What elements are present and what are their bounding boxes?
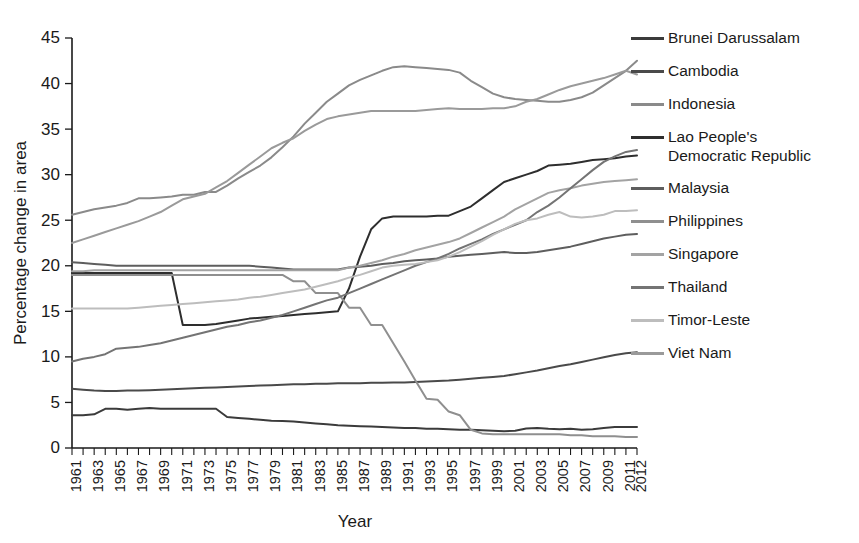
x-tick-label: 1985: [334, 460, 350, 492]
legend-item[interactable]: Malaysia: [631, 178, 857, 198]
y-axis-group: 051015202530354045: [41, 28, 72, 457]
x-tick-label: 1993: [422, 460, 438, 492]
chart-legend: Brunei DarussalamCambodiaIndonesiaLao Pe…: [631, 28, 857, 376]
legend-item[interactable]: Indonesia: [631, 94, 857, 114]
legend-item-label: Philippines: [668, 211, 743, 230]
x-tick-label: 1977: [245, 460, 261, 492]
legend-item-label: Cambodia: [668, 61, 739, 80]
x-tick-label: 1963: [90, 460, 106, 492]
legend-item[interactable]: Philippines: [631, 211, 857, 231]
x-tick-label: 1983: [312, 460, 328, 492]
legend-item[interactable]: Singapore: [631, 244, 857, 264]
series-line-cambodia: [72, 352, 637, 391]
x-tick-label: 1981: [289, 460, 305, 492]
series-line-thailand: [72, 150, 637, 361]
legend-color-swatch: [631, 136, 664, 139]
legend-item[interactable]: Cambodia: [631, 61, 857, 81]
y-tick-label: 35: [41, 120, 60, 139]
chart-figure: 051015202530354045 196119631965196719691…: [0, 0, 859, 543]
legend-item[interactable]: Timor-Leste: [631, 310, 857, 330]
legend-item[interactable]: Lao People's Democratic Republic: [631, 127, 857, 165]
y-tick-label: 45: [41, 28, 60, 47]
y-tick-label: 30: [41, 165, 60, 184]
x-tick-label: 1965: [112, 460, 128, 492]
x-tick-label: 1987: [356, 460, 372, 492]
x-tick-label: 1971: [179, 460, 195, 492]
series-line-singapore: [72, 179, 637, 271]
legend-item-label: Singapore: [668, 244, 739, 263]
x-tick-label: 2001: [511, 460, 527, 492]
y-axis-title: Percentage change in area: [11, 140, 30, 345]
legend-item-label: Malaysia: [668, 178, 729, 197]
series-line-malaysia: [72, 234, 637, 270]
legend-item-label: Brunei Darussalam: [668, 28, 800, 47]
y-tick-label: 40: [41, 74, 60, 93]
x-tick-label: 1967: [134, 460, 150, 492]
legend-item-label: Lao People's Democratic Republic: [668, 127, 811, 165]
x-tick-label: 1995: [444, 460, 460, 492]
legend-color-swatch: [631, 220, 664, 223]
y-tick-label: 25: [41, 211, 60, 230]
series-line-lao-people-s-democratic-republic: [72, 156, 637, 325]
x-tick-label: 2005: [555, 460, 571, 492]
series-line-brunei-darussalam: [72, 408, 637, 431]
x-tick-label: 1989: [378, 460, 394, 492]
legend-item-label: Viet Nam: [668, 343, 731, 362]
x-tick-label: 1973: [201, 460, 217, 492]
legend-color-swatch: [631, 286, 664, 289]
x-tick-label: 2009: [600, 460, 616, 492]
legend-color-swatch: [631, 103, 664, 106]
legend-item-label: Timor-Leste: [668, 310, 750, 329]
x-tick-label: 1961: [68, 460, 84, 492]
legend-item-label: Indonesia: [668, 94, 735, 113]
x-axis-group: 1961196319651967196919711973197519771979…: [68, 448, 649, 492]
legend-item[interactable]: Thailand: [631, 277, 857, 297]
x-axis-title: Year: [338, 512, 373, 531]
y-tick-label: 0: [51, 438, 60, 457]
legend-item[interactable]: Brunei Darussalam: [631, 28, 857, 48]
legend-color-swatch: [631, 70, 664, 73]
y-tick-label: 15: [41, 302, 60, 321]
legend-color-swatch: [631, 187, 664, 190]
series-line-philippines: [72, 275, 637, 437]
x-tick-label: 1999: [489, 460, 505, 492]
series-line-viet-nam: [72, 71, 637, 243]
legend-color-swatch: [631, 253, 664, 256]
x-tick-label: 1975: [223, 460, 239, 492]
series-group: [72, 61, 637, 437]
y-tick-label: 5: [51, 393, 60, 412]
legend-item[interactable]: Viet Nam: [631, 343, 857, 363]
legend-color-swatch: [631, 319, 664, 322]
x-tick-label: 1991: [400, 460, 416, 492]
legend-item-label: Thailand: [668, 277, 727, 296]
series-line-timor-leste: [72, 210, 637, 308]
x-tick-label: 1969: [156, 460, 172, 492]
x-tick-label: 1997: [467, 460, 483, 492]
x-tick-label: 2007: [577, 460, 593, 492]
legend-color-swatch: [631, 37, 664, 40]
y-tick-label: 10: [41, 347, 60, 366]
y-tick-label: 20: [41, 256, 60, 275]
legend-color-swatch: [631, 352, 664, 355]
x-tick-label: 1979: [267, 460, 283, 492]
x-tick-label: 2012: [633, 460, 649, 492]
x-tick-label: 2003: [533, 460, 549, 492]
